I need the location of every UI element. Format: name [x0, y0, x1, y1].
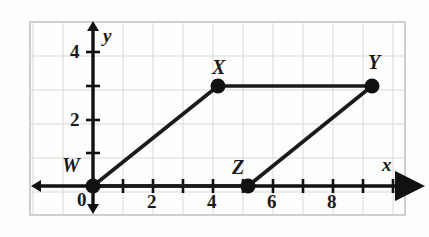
point-z-dot	[241, 179, 256, 194]
x-axis-label: x	[382, 155, 392, 174]
point-label-y: Y	[368, 52, 380, 72]
x-tick-label-8: 8	[327, 192, 337, 211]
x-tick-label-4: 4	[207, 192, 217, 211]
y-tick-label-2: 2	[70, 110, 80, 129]
point-y-dot	[365, 79, 380, 94]
y-tick-label-4: 4	[70, 42, 80, 61]
point-label-w: W	[62, 155, 80, 175]
x-tick-label-6: 6	[267, 192, 277, 211]
x-tick-label-2: 2	[147, 192, 157, 211]
y-axis-label: y	[103, 26, 111, 45]
point-label-x: X	[212, 57, 225, 77]
point-w-dot	[86, 179, 101, 194]
origin-label: 0	[77, 190, 87, 209]
point-x-dot	[211, 79, 226, 94]
coordinate-plane-figure: 4 2 0 2 4 6 8 y x W X Y Z	[0, 0, 429, 237]
point-label-z: Z	[232, 157, 244, 177]
